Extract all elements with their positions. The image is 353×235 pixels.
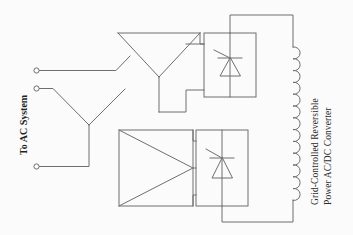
schematic-drawing: To AC System Grid-Controlled Reversible … [0, 0, 353, 235]
ac-terminal-phase-b [34, 86, 39, 91]
wye-winding-transformer [118, 33, 204, 112]
delta-winding-transformer [119, 130, 196, 206]
ac-terminal-phase-a [34, 68, 39, 73]
reactor-coil-winding [293, 47, 300, 201]
dc-positive-bus [230, 15, 293, 47]
delta-winding-enclosure [119, 130, 193, 206]
converter-label-line-1: Grid-Controlled Reversible [310, 98, 320, 205]
wye-left-arm [118, 33, 159, 77]
ac-phase-a-conductor [39, 56, 130, 71]
converter-schematic-figure: To AC System Grid-Controlled Reversible … [0, 0, 353, 235]
upper-thyristor-bridge [204, 33, 256, 97]
ac-source-group [34, 56, 130, 169]
ac-phase-b-conductor [39, 89, 89, 126]
ac-system-label: To AC System [18, 94, 29, 155]
upper-thyristor-gate-lead [214, 50, 230, 58]
dc-smoothing-reactor [293, 47, 300, 201]
wye-right-arm [159, 33, 200, 77]
dc-bus-wiring [222, 15, 293, 222]
converter-label-line-2: Power AC/DC Converter [323, 107, 333, 205]
dc-negative-bus [222, 200, 293, 222]
lower-thyristor-gate-lead [206, 149, 222, 158]
wye-upper-lead [200, 33, 204, 44]
ac-wye-neutral-stem [39, 125, 89, 167]
delta-triangle [119, 130, 193, 206]
ac-terminal-phase-c [34, 164, 39, 169]
lower-thyristor-bridge [196, 130, 248, 206]
ac-wye-upper-arm [89, 89, 125, 125]
wye-lower-lead [159, 90, 204, 112]
